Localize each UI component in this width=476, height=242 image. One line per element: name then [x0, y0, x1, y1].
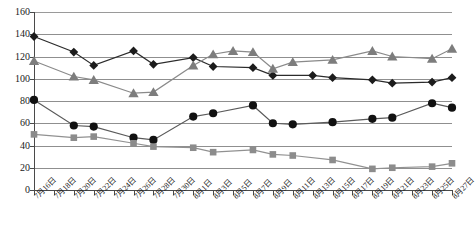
data-point-circle: [209, 109, 217, 117]
data-point-circle: [289, 120, 297, 128]
series-triangle: [29, 44, 457, 97]
data-point-diamond: [368, 75, 377, 84]
data-point-square: [250, 147, 257, 154]
data-point-circle: [368, 115, 376, 123]
y-axis-tick-label: 20: [0, 163, 30, 173]
data-point-circle: [149, 136, 157, 144]
data-point-triangle: [188, 61, 198, 70]
data-point-diamond: [89, 61, 98, 70]
data-point-square: [369, 166, 376, 173]
series-triangle-line: [34, 49, 452, 94]
data-point-square: [31, 131, 38, 138]
data-point-circle: [30, 96, 38, 104]
data-point-circle: [269, 119, 277, 127]
data-point-square: [130, 140, 137, 147]
chart-series-layer: [34, 12, 452, 190]
y-axis-tick-label: 80: [0, 96, 30, 106]
data-point-circle: [189, 112, 197, 120]
data-point-diamond: [388, 79, 397, 88]
data-point-square: [449, 160, 456, 167]
data-point-diamond: [428, 78, 437, 87]
data-point-square: [289, 152, 296, 159]
data-point-triangle: [367, 46, 377, 55]
data-point-diamond: [308, 71, 317, 80]
data-point-square: [90, 133, 97, 140]
data-point-diamond: [448, 73, 457, 82]
data-point-square: [270, 151, 277, 158]
data-point-triangle: [69, 72, 79, 81]
data-point-triangle: [148, 87, 158, 96]
data-point-diamond: [69, 48, 78, 57]
data-point-circle: [90, 122, 98, 130]
data-point-diamond: [129, 47, 138, 56]
y-axis-tick-label: 40: [0, 141, 30, 151]
data-point-circle: [70, 121, 78, 129]
y-axis-tick-label: 120: [0, 52, 30, 62]
y-axis-tick-label: 160: [0, 7, 30, 17]
data-point-circle: [328, 118, 336, 126]
data-point-diamond: [149, 60, 158, 69]
y-axis-tick-label: 100: [0, 74, 30, 84]
data-point-square: [150, 143, 157, 150]
data-point-diamond: [249, 63, 258, 72]
data-point-square: [190, 144, 197, 151]
y-axis-tick-label: 60: [0, 118, 30, 128]
data-point-diamond: [209, 62, 218, 71]
data-point-circle: [448, 104, 456, 112]
data-point-diamond: [328, 73, 337, 82]
series-square: [31, 131, 456, 172]
data-point-triangle: [447, 44, 457, 53]
data-point-square: [329, 157, 336, 164]
data-point-circle: [249, 101, 257, 109]
data-point-square: [71, 134, 78, 141]
data-point-circle: [428, 99, 436, 107]
y-axis-tick-label: 140: [0, 29, 30, 39]
data-point-square: [210, 149, 217, 156]
y-axis-tick-label: 0: [0, 185, 30, 195]
data-point-triangle: [228, 46, 238, 55]
data-point-square: [389, 164, 396, 171]
data-point-square: [429, 163, 436, 170]
data-point-circle: [388, 114, 396, 122]
